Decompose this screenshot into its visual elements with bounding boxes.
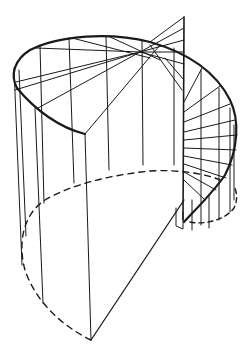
tread [16,52,140,82]
tread [184,135,237,140]
spiral-staircase-diagram [0,0,249,357]
cut-plane-diagonal-edge [91,200,184,340]
newel-post [183,17,184,220]
baluster [106,36,109,170]
tread [184,156,232,165]
cut-plane-top-edge [85,45,160,134]
cut-plane-vertical-edge [85,134,91,340]
tread [184,180,205,200]
tread [184,68,202,102]
tread [184,172,216,190]
baluster [142,40,143,165]
tread [38,52,140,108]
tread [140,28,184,52]
staircase-svg [0,0,249,357]
tread [72,38,150,58]
helix-rim [14,36,237,222]
baluster [14,68,22,265]
tread [184,86,220,112]
hidden-base-ellipse [22,171,220,340]
tread [15,52,140,90]
tread [184,148,236,150]
baluster [40,45,44,203]
tread [184,120,235,132]
baluster [69,38,74,183]
baluster [35,108,43,303]
tread [150,17,184,42]
